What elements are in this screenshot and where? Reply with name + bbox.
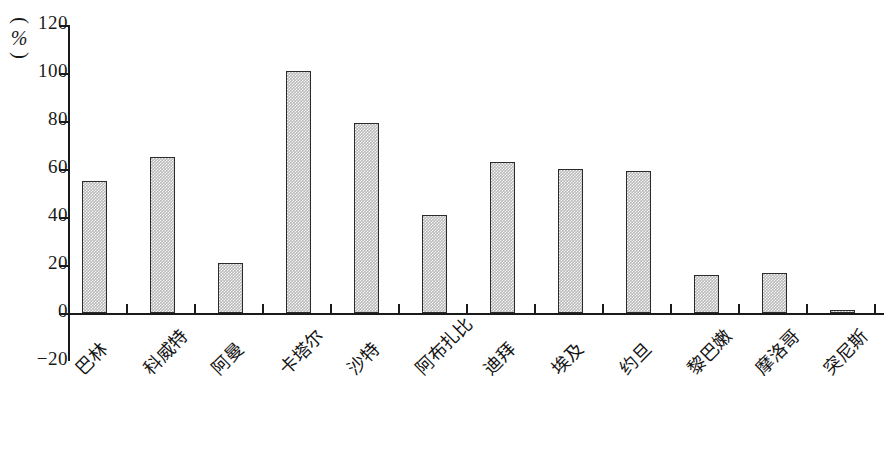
bar xyxy=(354,123,379,313)
x-axis-category-label: 沙特 xyxy=(340,336,384,380)
x-axis-tick xyxy=(398,304,400,313)
plot-area: −20020406080100120巴林科威特阿曼卡塔尔沙特阿布扎比迪拜埃及约旦… xyxy=(0,0,892,459)
x-axis-tick xyxy=(126,304,128,313)
x-axis-category-label: 埃及 xyxy=(544,336,588,380)
y-axis-tick-label: 100 xyxy=(22,60,68,82)
bar xyxy=(694,275,719,313)
bar-chart-figure: ( % ) −20020406080100120巴林科威特阿曼卡塔尔沙特阿布扎比… xyxy=(0,0,892,459)
bar xyxy=(830,310,855,313)
x-axis-tick xyxy=(194,304,196,313)
y-axis-tick-label: 120 xyxy=(22,12,68,34)
x-axis-tick xyxy=(262,304,264,313)
bar xyxy=(490,162,515,313)
x-axis-category-label: 阿布扎比 xyxy=(408,310,477,379)
bar xyxy=(762,273,787,313)
x-axis-tick xyxy=(806,304,808,313)
x-axis-category-label: 约旦 xyxy=(612,336,656,380)
bar xyxy=(558,169,583,313)
x-axis-category-label: 迪拜 xyxy=(476,336,520,380)
x-axis-tick xyxy=(330,304,332,313)
x-axis-category-label: 突尼斯 xyxy=(816,323,873,380)
x-axis-category-label: 黎巴嫩 xyxy=(680,323,737,380)
x-axis-category-label: 科威特 xyxy=(136,323,193,380)
bar xyxy=(422,215,447,313)
x-axis-baseline xyxy=(68,313,884,315)
y-axis-tick-label: 80 xyxy=(22,108,68,130)
bar xyxy=(82,181,107,313)
y-axis-tick-label: 20 xyxy=(22,252,68,274)
x-axis-tick xyxy=(738,304,740,313)
bar xyxy=(218,263,243,313)
y-axis-tick-label: 40 xyxy=(22,204,68,226)
y-axis-tick-label: 0 xyxy=(22,300,68,322)
bar xyxy=(626,171,651,313)
bar xyxy=(286,71,311,313)
x-axis-category-label: 巴林 xyxy=(68,336,112,380)
bar xyxy=(150,157,175,313)
x-axis-category-label: 摩洛哥 xyxy=(748,323,805,380)
x-axis-tick xyxy=(602,304,604,313)
y-axis-tick-label: −20 xyxy=(22,348,68,370)
x-axis-category-label: 阿曼 xyxy=(204,336,248,380)
x-axis-tick xyxy=(670,304,672,313)
y-axis-tick-label: 60 xyxy=(22,156,68,178)
y-axis-line xyxy=(68,25,70,361)
x-axis-tick xyxy=(874,304,876,313)
x-axis-category-label: 卡塔尔 xyxy=(272,323,329,380)
x-axis-tick xyxy=(534,304,536,313)
x-axis-tick xyxy=(466,304,468,313)
